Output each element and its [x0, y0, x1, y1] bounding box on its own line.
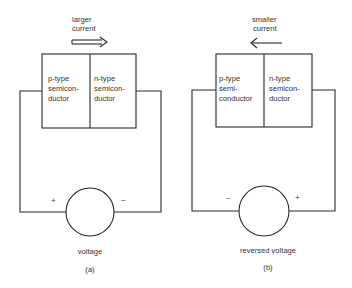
panel-b: smaller current p-type semi- conductor n… — [192, 15, 335, 272]
current-label-line2-b: current — [253, 24, 278, 33]
source-label-a: voltage — [78, 247, 103, 256]
terminal-minus-a: – — [121, 195, 126, 204]
p-region-line1-b: p-type — [219, 74, 240, 83]
source-label-b: reversed voltage — [240, 246, 296, 255]
n-region-line1-b: n-type — [269, 74, 290, 83]
n-region-line1-a: n-type — [94, 74, 115, 83]
n-region-line3-a: ductor — [94, 94, 116, 103]
p-region-line1-a: p-type — [48, 74, 69, 83]
voltage-source-b — [239, 186, 289, 236]
arrow-right-icon — [72, 37, 107, 47]
p-region-line3-b: conductor — [219, 94, 253, 103]
caption-a: (a) — [85, 265, 95, 274]
caption-b: (b) — [263, 263, 273, 272]
current-label-line1-a: larger — [72, 15, 92, 24]
p-region-line2-b: semi- — [219, 84, 238, 93]
n-region-line2-a: semicon- — [94, 84, 125, 93]
arrow-left-icon — [251, 38, 282, 48]
current-label-line2-a: current — [72, 24, 97, 33]
current-label-line1-b: smaller — [252, 15, 277, 24]
pn-junction-diagram: larger current p-type semicon- ductor n-… — [0, 0, 352, 288]
voltage-source-a — [66, 188, 114, 236]
terminal-plus-b: + — [295, 193, 300, 202]
terminal-plus-a: + — [51, 196, 56, 205]
terminal-minus-b: – — [226, 193, 231, 202]
n-region-line2-b: semicon- — [269, 84, 300, 93]
p-region-line2-a: semicon- — [48, 84, 79, 93]
panel-a: larger current p-type semicon- ductor n-… — [20, 15, 161, 274]
n-region-line3-b: ductor — [269, 94, 291, 103]
p-region-line3-a: ductor — [48, 94, 70, 103]
